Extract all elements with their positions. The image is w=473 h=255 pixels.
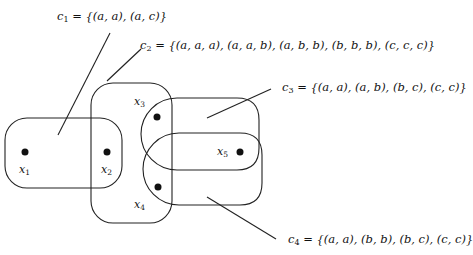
- constraint-label-c1: c1 = {(a, a), (a, c)}: [57, 11, 167, 24]
- variable-node-x1: [22, 149, 29, 156]
- variable-node-x3: [154, 114, 161, 121]
- leader-line-c4: [207, 197, 276, 239]
- variable-label-x5: x5: [217, 146, 228, 159]
- variable-node-x2: [104, 149, 111, 156]
- variable-node-x5: [237, 149, 244, 156]
- hyperedge-c2: [91, 83, 172, 223]
- leader-line-c2: [107, 49, 141, 81]
- variable-label-x1: x1: [19, 164, 30, 177]
- variable-node-x4: [155, 184, 162, 191]
- variable-label-x2: x2: [101, 164, 112, 177]
- constraint-label-c2: c2 = {(a, a, a), (a, a, b), (a, b, b), (…: [140, 40, 435, 53]
- constraint-label-c4: c4 = {(a, a), (b, b), (b, c), (c, c)}: [288, 234, 473, 247]
- leader-line-c3: [207, 89, 271, 118]
- variable-label-x3: x3: [134, 96, 145, 109]
- constraint-label-c3: c3 = {(a, a), (a, b), (b, c), (c, c)}: [282, 82, 467, 95]
- hyperedge-c3: [141, 98, 259, 170]
- variable-label-x4: x4: [134, 199, 145, 212]
- leader-line-c1: [58, 33, 110, 135]
